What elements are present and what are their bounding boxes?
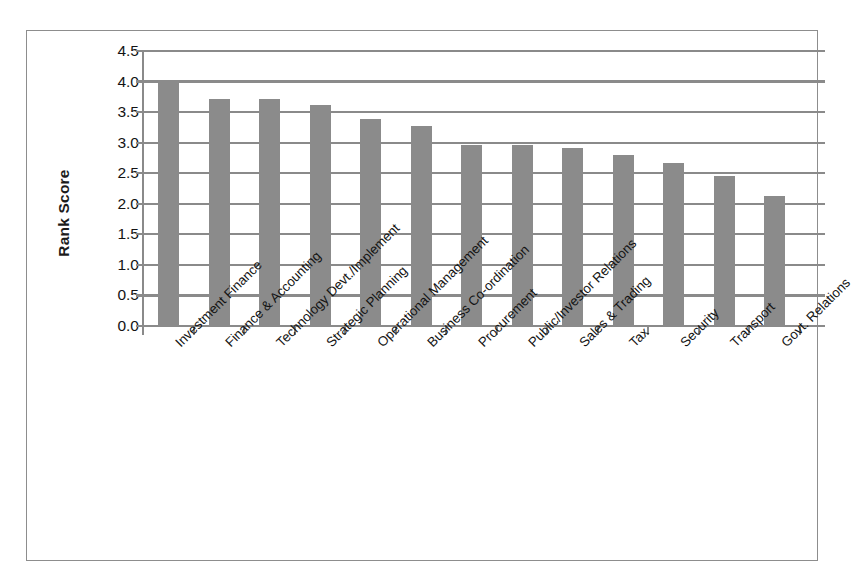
y-axis-tick-label: 2.5 [89,165,139,181]
chart-frame: Rank Score 4.54.03.53.02.52.01.51.00.50.… [26,30,818,561]
bar-chart: Rank Score 4.54.03.53.02.52.01.51.00.50.… [27,31,819,562]
y-axis-tick-label: 0.0 [89,318,139,334]
plot-area: Investment FinanceFinance & AccountingTe… [142,31,819,562]
y-axis-title: Rank Score [55,143,79,283]
y-axis-tick-label: 1.5 [89,227,139,243]
x-axis-category-labels: Investment FinanceFinance & AccountingTe… [142,31,825,562]
x-axis-category-label: Business Co-ordination [425,243,532,350]
x-axis-category-label: Tax [627,325,651,349]
x-axis-category-label: Security [678,306,721,349]
x-axis-category-label: Investment Finance [173,258,264,349]
x-axis-category-label: Finance & Accounting [223,249,323,349]
y-axis-tick-label: 3.5 [89,104,139,120]
y-axis-tick-label: 1.0 [89,257,139,273]
y-axis-tick-label: 3.0 [89,135,139,151]
y-axis-tick-label: 4.5 [89,43,139,59]
y-axis-tick-label: 0.5 [89,288,139,304]
y-axis-tick-label: 4.0 [89,74,139,90]
y-axis-tick-label: 2.0 [89,196,139,212]
x-axis-category-label: Transport [728,300,777,349]
x-axis-category-label: Govt. Relations [779,276,853,350]
y-axis-tick-labels: 4.54.03.53.02.52.01.51.00.50.0 [89,31,139,562]
